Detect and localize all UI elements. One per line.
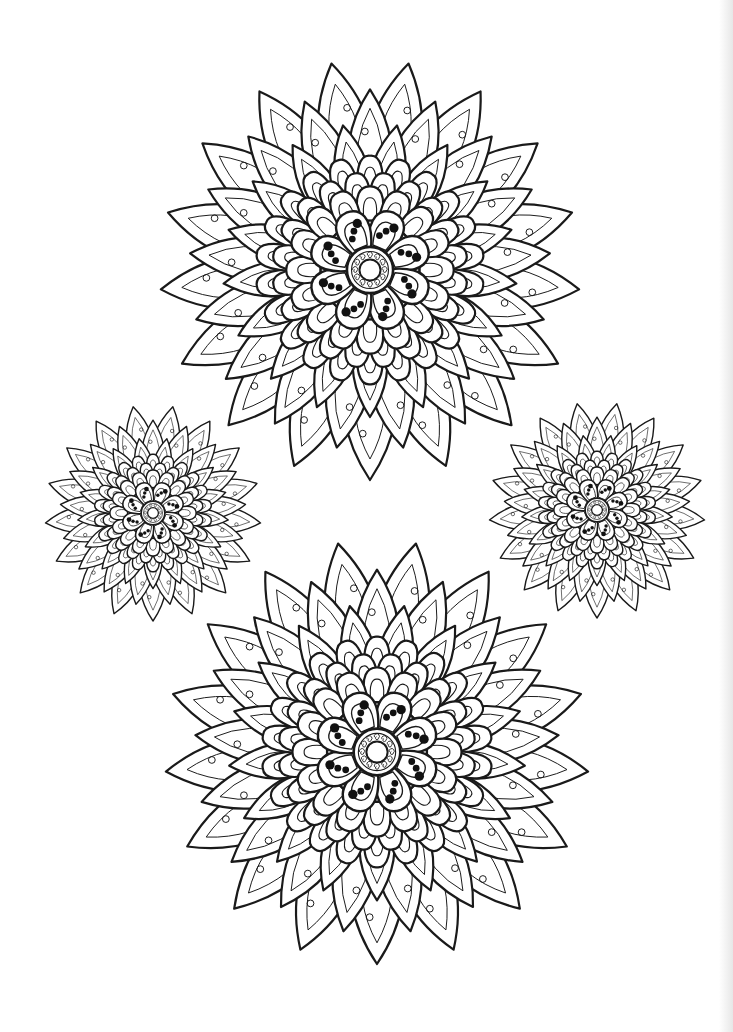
- left-small-mandala: [45, 407, 260, 621]
- page-edge-shadow: [719, 0, 733, 1032]
- right-small-mandala: [489, 404, 704, 618]
- top-large-mandala: [161, 64, 579, 480]
- coloring-page: [0, 0, 733, 1032]
- mandala-artwork: [0, 0, 733, 1032]
- bottom-large-mandala: [166, 544, 588, 964]
